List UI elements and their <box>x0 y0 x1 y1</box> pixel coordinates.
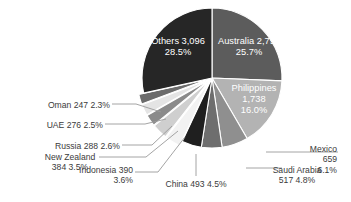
pie-label-australia-line1: Australia 2,791 <box>218 36 280 46</box>
pie-chart-figure: Australia 2,79125.7%Philippines1,73816.0… <box>0 0 351 202</box>
pie-label-others-line2: 28.5% <box>165 47 191 57</box>
pie-label-russia: Russia 288 2.6% <box>55 141 120 151</box>
pie-label-russia-line1: Russia 288 2.6% <box>55 141 120 151</box>
pie-label-new-zealand: New Zealand384 3.5% <box>45 152 96 173</box>
pie-label-saudi-arabia-line1: Saudi Arabia <box>273 165 322 175</box>
pie-label-uae: UAE 276 2.5% <box>47 120 104 130</box>
pie-label-new-zealand-line1: New Zealand <box>45 152 96 162</box>
pie-label-oman: Oman 247 2.3% <box>48 100 110 110</box>
pie-label-saudi-arabia-line2: 517 4.8% <box>279 176 316 186</box>
pie-label-australia-line2: 25.7% <box>236 47 262 57</box>
pie-label-mexico-line2: 659 <box>323 154 338 164</box>
pie-label-oman-line1: Oman 247 2.3% <box>48 100 110 110</box>
pie-label-indonesia-line2: 3.6% <box>113 176 133 186</box>
pie-label-china-line1: China 493 4.5% <box>165 179 227 189</box>
pie-slices-group <box>139 8 282 148</box>
pie-label-china: China 493 4.5% <box>165 179 227 189</box>
pie-label-saudi-arabia: Saudi Arabia517 4.8% <box>273 165 322 186</box>
pie-label-mexico-line1: Mexico <box>310 144 337 154</box>
pie-label-philippines-line3: 16.0% <box>241 105 267 115</box>
pie-label-philippines-line1: Philippines <box>232 83 277 93</box>
pie-chart-svg: Australia 2,79125.7%Philippines1,73816.0… <box>0 0 351 202</box>
pie-label-philippines-line2: 1,738 <box>242 94 265 104</box>
pie-label-uae-line1: UAE 276 2.5% <box>47 120 104 130</box>
pie-label-others-line1: Others 3,096 <box>151 36 205 46</box>
pie-label-new-zealand-line2: 384 3.5% <box>52 163 89 173</box>
